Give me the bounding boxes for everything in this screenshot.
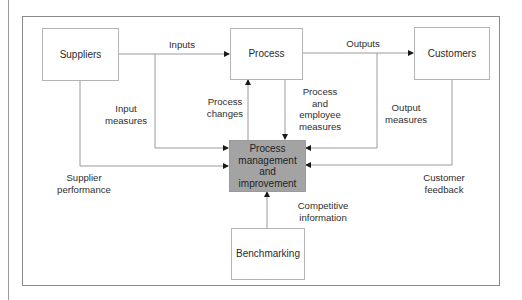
customer-feedback-label: Customer feedback — [418, 172, 470, 195]
pmi-label-line2: management — [238, 155, 296, 167]
suppliers-node: Suppliers — [42, 28, 119, 81]
benchmarking-label: Benchmarking — [236, 248, 300, 260]
competitive-information-label: Competitive information — [293, 200, 353, 223]
process-changes-label: Process changes — [200, 96, 250, 119]
pmi-label-line3: and — [259, 166, 276, 178]
supplier-performance-label: Supplier performance — [52, 172, 116, 195]
output-measures-label: Output measures — [380, 102, 432, 125]
pmi-label-line1: Process — [249, 143, 285, 155]
benchmarking-node: Benchmarking — [231, 228, 305, 280]
process-label: Process — [248, 48, 284, 60]
customers-node: Customers — [414, 27, 490, 80]
suppliers-label: Suppliers — [60, 49, 102, 61]
pmi-label-line4: improvement — [239, 178, 297, 190]
process-node: Process — [230, 28, 303, 80]
customers-label: Customers — [428, 48, 476, 60]
process-management-improvement-node: Process management and improvement — [229, 140, 306, 192]
outputs-label: Outputs — [338, 38, 388, 50]
input-measures-label: Input measures — [100, 103, 152, 126]
process-employee-measures-label: Process and employee measures — [292, 86, 348, 132]
inputs-label: Inputs — [160, 39, 204, 51]
